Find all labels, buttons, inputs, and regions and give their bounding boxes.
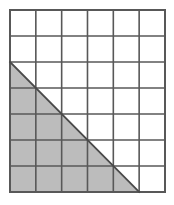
grid-cell [113, 62, 139, 88]
grid-triangle-diagram [0, 0, 174, 205]
grid-cell [139, 36, 165, 62]
grid-cell [62, 10, 88, 36]
grid-cell [113, 114, 139, 140]
grid-cell [113, 88, 139, 114]
grid-cell [10, 36, 36, 62]
grid-cell [87, 36, 113, 62]
grid-cell [62, 88, 88, 114]
grid-cell [139, 88, 165, 114]
grid-cell [113, 140, 139, 166]
grid-cell [139, 140, 165, 166]
grid-cell [62, 62, 88, 88]
grid-cell [139, 62, 165, 88]
grid-cell [36, 10, 62, 36]
grid-cell [87, 114, 113, 140]
grid-cell [10, 10, 36, 36]
grid-cell [113, 36, 139, 62]
grid-cell [36, 36, 62, 62]
grid-cell [139, 114, 165, 140]
grid-cell [62, 36, 88, 62]
grid-cell [113, 10, 139, 36]
grid-cell [87, 62, 113, 88]
grid-cell [139, 166, 165, 192]
grid-cell [36, 62, 62, 88]
grid-cell [87, 10, 113, 36]
grid-cell [87, 88, 113, 114]
figure-root [0, 0, 174, 205]
grid-cell [139, 10, 165, 36]
